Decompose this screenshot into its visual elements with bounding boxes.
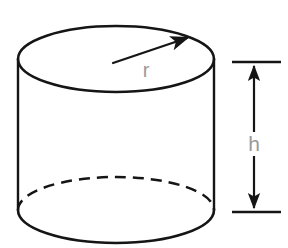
height-label: h (248, 132, 260, 155)
cylinder-figure-canvas: r h (0, 0, 288, 248)
cylinder-top-ellipse (18, 26, 214, 92)
radius-arrow (113, 38, 187, 63)
cylinder-diagram: r h (0, 0, 288, 248)
cylinder-bottom-front-arc (18, 210, 214, 243)
radius-label: r (143, 59, 150, 81)
cylinder-bottom-back-arc-dashed (18, 177, 214, 210)
